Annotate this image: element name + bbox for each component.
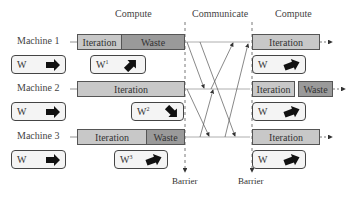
- weights-superscript: 2: [146, 106, 149, 112]
- machine-3-weights-updated: W: [252, 150, 306, 169]
- machine-3-waste: Waste: [146, 129, 185, 145]
- machine-2-iteration-next: Iteration: [252, 81, 295, 97]
- machine-3-weights-3: W3: [114, 150, 168, 169]
- arrow-right-icon: [45, 59, 61, 71]
- barrier-label-1: Barrier: [172, 176, 197, 186]
- arrow-right-icon: [283, 58, 301, 72]
- machine-2-weights-updated: W: [252, 102, 306, 121]
- arrow-right-icon: [45, 154, 61, 166]
- machine-2-waste-next: Waste: [298, 81, 333, 97]
- header-compute-left: Compute: [115, 8, 152, 19]
- weights-label: W: [258, 59, 267, 70]
- header-communicate: Communicate: [192, 8, 248, 19]
- weights-label: W: [17, 154, 26, 165]
- machine-3-local-weights: W: [11, 150, 66, 169]
- arrow-right-icon: [45, 106, 61, 118]
- machine-1-iteration: Iteration: [77, 34, 122, 50]
- weights-superscript: 1: [105, 59, 108, 65]
- machine-1-iteration-next: Iteration: [252, 34, 320, 50]
- machine-1-local-weights: W: [11, 55, 66, 74]
- machine-1-weights-1: W1: [90, 55, 146, 74]
- header-compute-right: Compute: [275, 8, 312, 19]
- machine-3-label: Machine 3: [17, 130, 60, 141]
- weights-label: W: [258, 106, 267, 117]
- arrow-right-icon: [283, 153, 301, 167]
- arrow-right-icon: [283, 105, 301, 119]
- machine-1-weights-updated: W: [252, 55, 306, 74]
- machine-1-label: Machine 1: [17, 35, 60, 46]
- weights-superscript: 3: [129, 154, 132, 160]
- arrow-right-icon: [145, 153, 163, 167]
- arrow-down-right-icon: [164, 105, 180, 119]
- barrier-label-2: Barrier: [238, 176, 263, 186]
- weights-label: W: [17, 106, 26, 117]
- machine-2-iteration: Iteration: [77, 81, 185, 97]
- machine-3-iteration-next: Iteration: [252, 129, 320, 145]
- machine-3-iteration: Iteration: [77, 129, 147, 145]
- machine-2-label: Machine 2: [17, 82, 60, 93]
- machine-1-waste: Waste: [121, 34, 185, 50]
- weights-label: W: [17, 59, 26, 70]
- arrow-up-right-icon: [123, 58, 139, 72]
- machine-2-local-weights: W: [11, 102, 66, 121]
- weights-label: W: [258, 154, 267, 165]
- machine-2-weights-2: W2: [131, 102, 184, 121]
